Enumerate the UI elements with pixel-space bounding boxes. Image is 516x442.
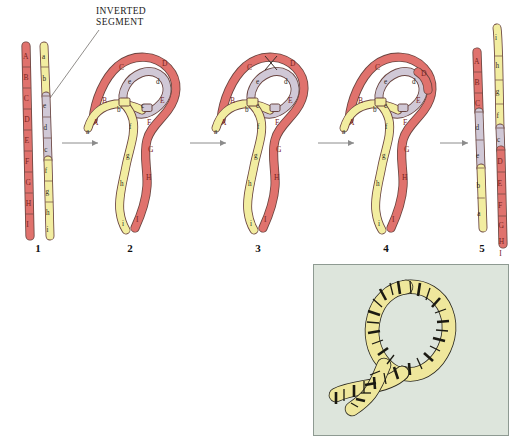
panel3-locus-g: g (254, 152, 258, 160)
panel1-locus-H: H (26, 199, 32, 208)
panel3-locus-A: A (221, 118, 227, 127)
panel3-locus-D: D (290, 59, 296, 68)
panel5-right-product: i h g f c D E F G H I (495, 28, 506, 258)
panel4-locus-b: b (373, 106, 377, 114)
panel-2: A B C D E F G H I a b f g h i c d e (86, 57, 176, 230)
figure-canvas: INVERTED SEGMENT 1 2 3 4 5 .red { fill:#… (0, 0, 516, 442)
panel1-locus-F: F (25, 157, 29, 166)
panel3-locus-H: H (274, 173, 280, 182)
panel5-left-locus-b: b (477, 182, 481, 190)
panel2-locus-C: C (119, 63, 124, 72)
panel4-locus-F: F (403, 118, 407, 127)
panel5-left-locus-d: d (476, 124, 480, 132)
panel1-locus-i: i (47, 226, 49, 234)
panel1-locus-C: C (24, 94, 29, 103)
panel5-left-locus-B: B (475, 78, 480, 87)
panel1-locus-A: A (23, 52, 29, 61)
panel5-right-locus-E: E (498, 179, 503, 188)
panel4-locus-H: H (402, 173, 408, 182)
inset-tail-strands (336, 365, 402, 409)
panel2-locus-h: h (120, 180, 124, 188)
panel2-locus-F: F (147, 118, 151, 127)
panel3-locus-c: c (256, 102, 259, 110)
panel5-right-locus-H: H (499, 237, 505, 246)
panel5-right-locus-c: c (497, 136, 500, 144)
panel2-locus-c: c (141, 102, 144, 110)
panel3-locus-b: b (245, 106, 249, 114)
panel5-left-locus-e: e (476, 152, 479, 160)
panel3-locus-B: B (230, 96, 235, 105)
polytene-inversion-loop-inset: .chr { fill:none; stroke:#efe79c; stroke… (313, 264, 509, 436)
polytene-chromosome-drawing: .chr { fill:none; stroke:#efe79c; stroke… (314, 265, 508, 435)
panel1-locus-e: e (43, 102, 46, 110)
panel5-left-locus-A: A (474, 57, 480, 66)
panel5-right-locus-I: I (499, 249, 502, 258)
panel1-locus-b: b (42, 75, 46, 83)
panel4-locus-G: G (404, 145, 410, 154)
panel4-locus-e: e (384, 78, 387, 86)
panel4-locus-d: d (412, 78, 416, 86)
panel4-locus-i: i (378, 220, 380, 228)
panel-5: A B C d e b a (474, 28, 506, 258)
panel5-left-product: A B C d e b a (474, 52, 485, 228)
panel4-locus-A: A (349, 118, 355, 127)
panel2-locus-E: E (160, 96, 165, 105)
panel1-locus-g: g (45, 188, 49, 196)
panel2-locus-b: b (117, 106, 121, 114)
panel1-locus-d: d (44, 124, 48, 132)
panel-4: A B C D E F G H I a b f g h i c d e (342, 57, 432, 230)
panel-1: A B C D E F G H I (23, 46, 54, 236)
panel3-locus-d: d (284, 78, 288, 86)
panel4-locus-C: C (375, 63, 380, 72)
panel3-locus-F: F (275, 118, 279, 127)
panel4-locus-B: B (358, 96, 363, 105)
panel-3: A B C D E F G H I a b f g h i c d e (214, 56, 304, 230)
panel5-left-locus-C: C (475, 99, 480, 108)
panel2-locus-H: H (146, 173, 152, 182)
panel5-right-locus-i: i (495, 34, 497, 42)
panel2-locus-D: D (162, 59, 168, 68)
panel4-locus-g: g (382, 152, 386, 160)
panel4-locus-E: E (416, 96, 421, 105)
panel3-locus-h: h (248, 180, 252, 188)
panel2-locus-d: d (156, 78, 160, 86)
panel5-right-locus-g: g (496, 88, 500, 96)
panel3-locus-G: G (276, 145, 282, 154)
panel2-locus-A: A (93, 118, 99, 127)
panel1-locus-B: B (23, 73, 28, 82)
panel1-inversion-homolog: a b e d c f g h i (41, 46, 53, 236)
panel2-locus-i: i (122, 220, 124, 228)
panel2-locus-G: G (148, 145, 154, 154)
panel5-right-locus-D: D (497, 157, 503, 166)
panel5-right-locus-h: h (495, 62, 499, 70)
panel5-right-locus-G: G (498, 221, 504, 230)
panel1-locus-c: c (44, 146, 47, 154)
panel3-locus-C: C (247, 63, 252, 72)
panel3-locus-e: e (256, 78, 259, 86)
panel4-locus-c: c (384, 102, 387, 110)
panel1-locus-h: h (46, 209, 50, 217)
panel4-locus-h: h (376, 180, 380, 188)
panel1-locus-G: G (25, 178, 31, 187)
panel1-locus-E: E (25, 136, 30, 145)
panel3-locus-i: i (250, 220, 252, 228)
panel1-normal-homolog: A B C D E F G H I (23, 46, 34, 236)
panel2-locus-e: e (128, 78, 131, 86)
panel2-locus-g: g (126, 152, 130, 160)
panel2-locus-B: B (102, 96, 107, 105)
panel5-right-locus-F: F (498, 201, 502, 210)
panel4-locus-D: D (421, 69, 427, 78)
callout-leader-line (50, 30, 99, 98)
panel1-locus-D: D (24, 115, 30, 124)
panel3-locus-E: E (288, 96, 293, 105)
